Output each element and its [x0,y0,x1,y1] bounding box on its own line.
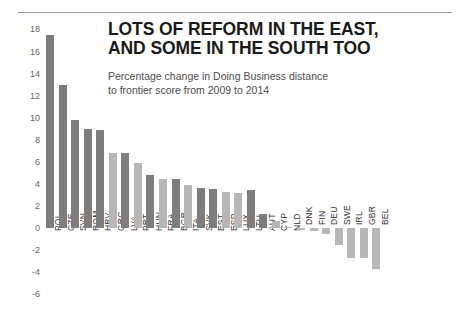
bar-cze [59,85,67,228]
x-axis-label-irl: IRL [354,211,364,225]
bar-svn [71,120,79,228]
bar-pol [46,35,54,228]
x-axis-label-deu: DEU [329,206,339,225]
bar-dnk [297,228,305,230]
x-axis-label-gbr: GBR [367,206,377,225]
x-axis-label-cyp: CYP [279,213,289,231]
bar-swe [335,228,343,245]
bar-deu [322,228,330,234]
x-axis-label-bel: BEL [380,208,390,225]
x-axis-label-dnk: DNK [304,206,314,225]
x-axis-label-fin: FIN [317,211,327,225]
bar-gbr [360,228,368,258]
plot-area: POLCZESVNROMHRVGRCLVAPRTHUNFRABGRITASVKE… [0,0,467,321]
x-axis-label-swe: SWE [342,205,352,225]
bar-irl [347,228,355,258]
bar-fin [310,228,318,231]
chart-figure: LOTS OF REFORM IN THE EAST, AND SOME IN … [0,0,467,321]
bar-bel [372,228,380,269]
